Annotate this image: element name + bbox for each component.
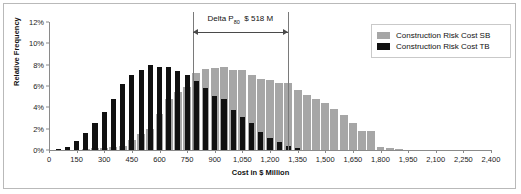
x-tick-label: 600 (153, 155, 166, 164)
delta-arrow-icon (193, 28, 288, 37)
x-tick-label: 750 (181, 155, 194, 164)
x-axis-label: Cost in $ Million (4, 168, 517, 177)
x-tick-label: 2,250 (454, 155, 473, 164)
x-tick-label: 1,050 (233, 155, 252, 164)
x-tick-mark (49, 150, 50, 153)
y-tick-label: 8% (33, 60, 44, 69)
delta-right-line (288, 12, 289, 150)
x-tick-mark (187, 150, 188, 153)
x-tick-label: 1,800 (371, 155, 390, 164)
x-tick-label: 0 (47, 155, 51, 164)
x-tick-label: 300 (98, 155, 111, 164)
x-tick-label: 900 (208, 155, 221, 164)
x-tick-label: 1,350 (288, 155, 307, 164)
y-tick-label: 0% (33, 146, 44, 155)
x-tick-label: 150 (70, 155, 83, 164)
x-tick-label: 1,200 (261, 155, 280, 164)
x-tick-label: 1,650 (343, 155, 362, 164)
x-tick-mark (242, 150, 243, 153)
delta-label: Delta P80 $ 518 M (193, 14, 288, 25)
y-tick-label: 2% (33, 124, 44, 133)
x-tick-label: 1,500 (316, 155, 335, 164)
x-tick-mark (77, 150, 78, 153)
y-tick-label: 12% (29, 18, 44, 27)
legend-swatch (377, 32, 390, 39)
x-tick-label: 2,400 (482, 155, 501, 164)
y-axis-label: Relative Frequency (12, 17, 21, 86)
x-tick-mark (491, 150, 492, 153)
x-tick-mark (408, 150, 409, 153)
x-tick-mark (160, 150, 161, 153)
x-tick-mark (353, 150, 354, 153)
x-tick-mark (436, 150, 437, 153)
x-tick-label: 2,100 (426, 155, 445, 164)
legend-label: Construction Risk Cost SB (396, 31, 490, 40)
x-tick-mark (104, 150, 105, 153)
chart-frame: Relative Frequency 0%2%4%6%8%10%12% 0150… (3, 3, 516, 189)
chart-legend: Construction Risk Cost SBConstruction Ri… (371, 24, 511, 58)
legend-item: Construction Risk Cost SB (377, 31, 505, 40)
x-tick-mark (381, 150, 382, 153)
x-tick-label: 1,950 (399, 155, 418, 164)
legend-item: Construction Risk Cost TB (377, 42, 505, 51)
x-tick-mark (270, 150, 271, 153)
x-tick-mark (298, 150, 299, 153)
legend-label: Construction Risk Cost TB (396, 42, 490, 51)
y-tick-label: 4% (33, 103, 44, 112)
y-tick-label: 6% (33, 82, 44, 91)
x-tick-mark (463, 150, 464, 153)
x-tick-mark (215, 150, 216, 153)
legend-swatch (377, 43, 390, 50)
x-tick-mark (132, 150, 133, 153)
x-tick-label: 450 (126, 155, 139, 164)
y-tick-label: 10% (29, 39, 44, 48)
x-tick-mark (325, 150, 326, 153)
